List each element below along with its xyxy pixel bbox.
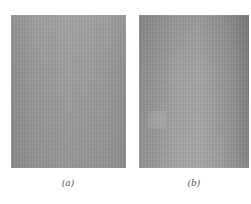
panel-b-caption: (b)	[179, 178, 209, 188]
light-patch-region	[148, 111, 166, 129]
panel-b-image	[139, 15, 249, 168]
panel-a-caption: (a)	[53, 178, 83, 188]
panel-a-image	[11, 15, 126, 168]
